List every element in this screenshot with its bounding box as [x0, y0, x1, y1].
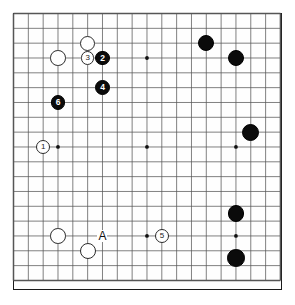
stone-move-number: 1	[41, 143, 45, 151]
stone-black[interactable]	[228, 205, 245, 222]
stone-move-number: 2	[100, 54, 104, 63]
stone-white-numbered-1[interactable]: 1	[36, 140, 50, 154]
stone-white-numbered-3[interactable]: 3	[81, 51, 94, 64]
stone-black-numbered-4[interactable]: 4	[95, 80, 110, 95]
stone-layer: 324615A	[0, 0, 295, 305]
stone-black[interactable]	[228, 50, 244, 66]
stone-white[interactable]	[50, 50, 66, 66]
stone-white[interactable]	[50, 228, 66, 244]
stone-black-numbered-6[interactable]: 6	[51, 95, 65, 109]
stone-black[interactable]	[198, 35, 214, 51]
stone-move-number: 5	[160, 232, 164, 240]
stone-black-numbered-2[interactable]: 2	[95, 51, 109, 65]
stone-move-number: 6	[56, 98, 60, 107]
stone-white-numbered-5[interactable]: 5	[155, 229, 169, 243]
board-marker-a: A	[97, 230, 107, 242]
stone-move-number: 3	[86, 54, 90, 62]
stone-white[interactable]	[80, 36, 95, 51]
stone-black[interactable]	[242, 124, 259, 141]
stone-black[interactable]	[227, 249, 245, 267]
go-board-diagram: 324615A	[0, 0, 295, 305]
stone-white[interactable]	[80, 243, 96, 259]
stone-move-number: 4	[100, 83, 104, 92]
